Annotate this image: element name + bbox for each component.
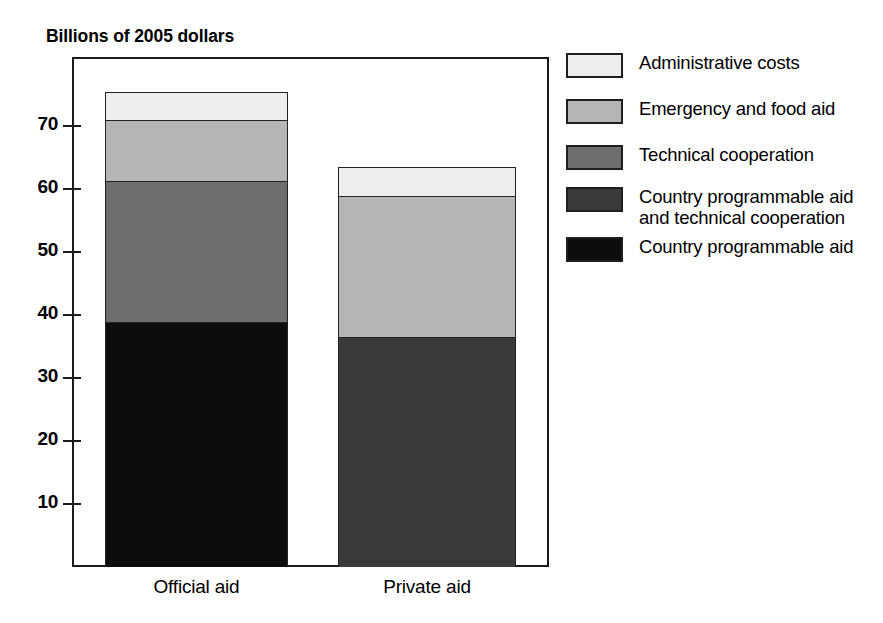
y-axis-tick xyxy=(63,188,81,190)
bar-segment-country-programmable-aid[interactable] xyxy=(105,322,288,567)
y-axis-tick-value: 60 xyxy=(37,176,58,198)
legend-item[interactable]: Emergency and food aid xyxy=(566,98,835,124)
y-axis-tick xyxy=(63,125,81,127)
y-axis-tick-value: 50 xyxy=(37,239,58,261)
y-axis-tick-value: 40 xyxy=(37,302,58,324)
legend-label: Technical cooperation xyxy=(639,144,814,165)
bar-segment-administrative-costs[interactable] xyxy=(338,167,516,196)
y-axis-tick-value: 10 xyxy=(37,491,58,513)
bar-segment-emergency-and-food-aid[interactable] xyxy=(338,196,516,337)
y-axis-tick-value: 30 xyxy=(37,365,58,387)
legend-swatch xyxy=(566,145,623,170)
y-axis-tick-value: 20 xyxy=(37,428,58,450)
legend-label: Administrative costs xyxy=(639,52,800,73)
bar-segment-emergency-and-food-aid[interactable] xyxy=(105,120,288,180)
bar-official-aid[interactable] xyxy=(105,0,288,567)
y-axis-tick xyxy=(63,440,81,442)
bar-segment-country-programmable-aid[interactable] xyxy=(338,337,516,567)
y-axis-tick-value: 70 xyxy=(37,113,58,135)
legend-swatch xyxy=(566,237,623,262)
legend-swatch xyxy=(566,99,623,124)
legend-label: Emergency and food aid xyxy=(639,98,835,119)
legend-label: Country programmable aid and technical c… xyxy=(639,186,853,228)
legend-swatch xyxy=(566,53,623,78)
y-axis-tick xyxy=(63,251,81,253)
bar-private-aid[interactable] xyxy=(338,0,516,567)
bar-segment-technical-cooperation[interactable] xyxy=(105,181,288,322)
bar-segment-administrative-costs[interactable] xyxy=(105,92,288,120)
legend-item[interactable]: Administrative costs xyxy=(566,52,800,78)
legend-swatch xyxy=(566,187,623,212)
x-axis-label-official-aid: Official aid xyxy=(105,576,288,598)
y-axis-tick xyxy=(63,377,81,379)
legend-item[interactable]: Country programmable aid xyxy=(566,236,853,262)
legend-label: Country programmable aid xyxy=(639,236,853,257)
y-axis-tick xyxy=(63,314,81,316)
legend-item[interactable]: Technical cooperation xyxy=(566,144,814,170)
x-axis-label-private-aid: Private aid xyxy=(338,576,516,598)
stacked-bar-chart: Billions of 2005 dollars 70605040302010 … xyxy=(0,0,883,623)
y-axis-tick xyxy=(63,503,81,505)
legend-item[interactable]: Country programmable aid and technical c… xyxy=(566,186,853,228)
